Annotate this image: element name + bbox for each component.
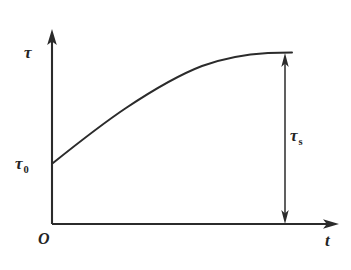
saturation-value-subscript: s xyxy=(299,136,303,147)
initial-value-symbol: τ xyxy=(15,154,23,173)
x-axis-label: t xyxy=(325,232,330,249)
saturation-value-symbol: τ xyxy=(290,126,298,145)
y-axis-label: τ xyxy=(24,44,32,61)
initial-value-subscript: 0 xyxy=(24,164,29,175)
initial-value-label: τ0 xyxy=(15,155,28,172)
origin-label: O xyxy=(38,231,50,247)
figure-container: τ τ0 τs t O xyxy=(0,0,351,270)
saturation-value-label: τs xyxy=(290,127,302,144)
saturation-curve xyxy=(53,53,292,164)
